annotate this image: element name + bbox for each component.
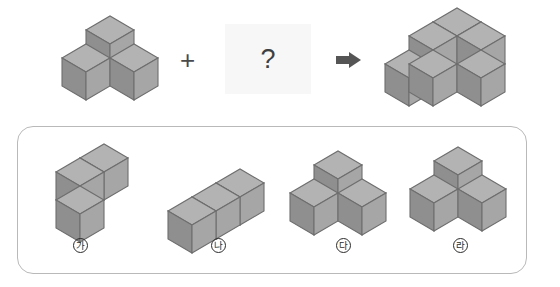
plus-operator: +: [180, 47, 195, 73]
option-ra[interactable]: [410, 147, 520, 237]
option-da-key: 다: [336, 238, 351, 253]
option-ga[interactable]: [56, 144, 160, 236]
puzzle-figure: + ?: [0, 0, 560, 287]
option-ra-label: 라: [440, 238, 480, 253]
option-na-key: 나: [211, 238, 226, 253]
option-ra-key: 라: [453, 238, 468, 253]
option-da-label: 다: [323, 238, 363, 253]
option-da[interactable]: [290, 151, 414, 237]
arrow-right-icon: [336, 52, 362, 68]
options-panel: 가 나: [17, 126, 527, 274]
option-na[interactable]: [168, 169, 288, 239]
question-mark: ?: [260, 46, 275, 73]
equation-row: + ?: [0, 0, 560, 118]
unknown-shape-placeholder: ?: [225, 24, 311, 94]
option-ga-label: 가: [60, 238, 100, 253]
option-na-label: 나: [198, 238, 238, 253]
option-ga-key: 가: [73, 238, 88, 253]
result-shape: [385, 8, 525, 112]
